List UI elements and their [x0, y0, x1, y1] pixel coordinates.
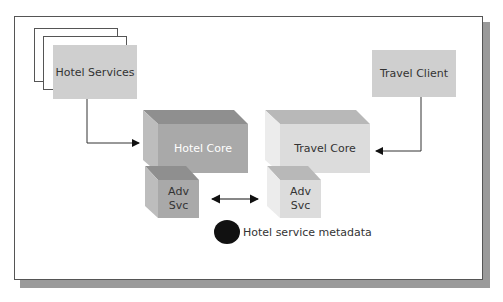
hotel-core-label: Hotel Core [158, 124, 248, 173]
travel-adv-svc-label: Adv Svc [280, 180, 321, 218]
travel-adv-svc-line2: Svc [291, 199, 311, 213]
arrow-hotel-services-to-core [87, 99, 139, 143]
diagram-shapes [0, 0, 503, 302]
travel-core-label: Travel Core [280, 124, 370, 173]
hotel-adv-svc-line2: Svc [169, 199, 189, 213]
hotel-adv-svc-line1: Adv [168, 185, 189, 199]
legend-label: Hotel service metadata [243, 226, 372, 239]
metadata-circle-icon [214, 220, 240, 244]
travel-adv-svc-line1: Adv [290, 185, 311, 199]
arrow-travel-client-to-core [376, 97, 421, 151]
hotel-adv-svc-label: Adv Svc [158, 180, 199, 218]
